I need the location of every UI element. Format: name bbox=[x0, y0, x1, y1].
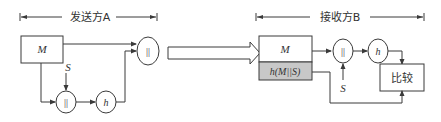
receiver-header-right-arrowhead bbox=[417, 15, 423, 19]
receiver-header-label: 接收方B bbox=[320, 10, 361, 24]
receiver-hash-label: h bbox=[376, 46, 381, 57]
sender-output-concat-symbol: || bbox=[146, 46, 150, 57]
sender-secret-label: S bbox=[65, 61, 71, 73]
mac-diagram: 发送方A M S || h || 接收方B bbox=[0, 0, 441, 122]
sender-header-left-arrowhead bbox=[21, 15, 27, 19]
receiver-secret-label: S bbox=[340, 82, 346, 94]
receiver-hash-to-compare-line bbox=[388, 51, 402, 64]
receiver-header-left-arrowhead bbox=[257, 15, 263, 19]
receiver-hash-field-label: h(M||S) bbox=[270, 66, 301, 78]
receiver-header: 接收方B bbox=[256, 10, 424, 24]
receiver-diagram: M h(M||S) || S h 比较 bbox=[259, 36, 424, 103]
receiver-message-label: M bbox=[279, 43, 290, 55]
transfer-arrow-icon bbox=[168, 42, 260, 64]
sender-hash-label: h bbox=[104, 97, 109, 108]
sender-message-to-concat-line bbox=[41, 63, 55, 102]
sender-header: 发送方A bbox=[20, 10, 157, 24]
sender-header-label: 发送方A bbox=[70, 10, 111, 24]
receiver-concat-symbol: || bbox=[341, 46, 345, 57]
sender-header-right-arrowhead bbox=[150, 15, 156, 19]
sender-diagram: M S || h || bbox=[21, 36, 159, 113]
receiver-compare-label: 比较 bbox=[391, 71, 413, 85]
sender-hash-to-output-line bbox=[116, 51, 136, 102]
sender-concat-symbol: || bbox=[64, 97, 68, 108]
sender-message-label: M bbox=[36, 43, 47, 55]
